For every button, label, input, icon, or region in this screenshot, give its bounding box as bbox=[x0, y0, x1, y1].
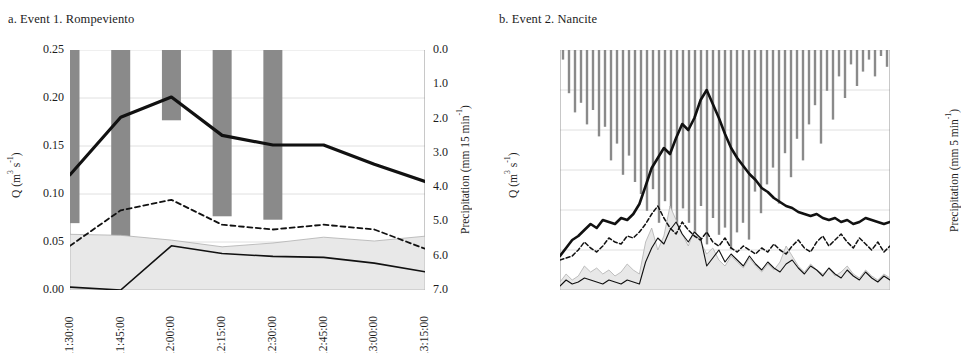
y-tick-label: 0.05 bbox=[22, 234, 64, 249]
y-tick-label: 0.20 bbox=[22, 90, 64, 105]
y2-tick-label: 5.0 bbox=[433, 213, 448, 228]
y2-tick-label: 7.0 bbox=[433, 282, 448, 297]
x-tick-label: 13:00:00 bbox=[367, 297, 379, 353]
y-tick-label: 0.00 bbox=[22, 282, 64, 297]
y2-tick-label: 6.0 bbox=[433, 248, 448, 263]
y-tick-label: 0.10 bbox=[22, 186, 64, 201]
y-tick-label: 0.15 bbox=[22, 138, 64, 153]
panel-a-y2-axis-title: Precipitation (mm 15 min-1) bbox=[455, 70, 469, 270]
x-tick-label: 12:45:00 bbox=[317, 297, 329, 353]
panel-event-2: b. Event 2. Nancite Q (m3 s-1) Precipita… bbox=[489, 0, 978, 353]
panel-event-1: a. Event 1. Rompeviento Q (m3 s-1) Preci… bbox=[0, 0, 489, 353]
x-tick-label: 12:30:00 bbox=[266, 297, 278, 353]
y-tick-label: 0.25 bbox=[22, 42, 64, 57]
y2-tick-label: 2.0 bbox=[433, 111, 448, 126]
panel-a-title: a. Event 1. Rompeviento bbox=[8, 12, 134, 27]
x-tick-label: 13:15:00 bbox=[418, 297, 430, 353]
x-tick-label: 11:45:00 bbox=[114, 297, 126, 353]
panel-b-title: b. Event 2. Nancite bbox=[499, 12, 597, 27]
y2-tick-label: 1.0 bbox=[433, 76, 448, 91]
x-tick-label: 12:00:00 bbox=[164, 297, 176, 353]
panel-a-plot-area bbox=[70, 50, 425, 290]
y2-tick-label: 3.0 bbox=[433, 145, 448, 160]
panel-b-y-axis-title: Q (m3 s-1) bbox=[503, 120, 517, 230]
x-tick-label: 12:15:00 bbox=[215, 297, 227, 353]
figure-two-panel-hydrographs: a. Event 1. Rompeviento Q (m3 s-1) Preci… bbox=[0, 0, 978, 353]
x-tick-label: 11:30:00 bbox=[63, 297, 75, 353]
panel-b-plot-area bbox=[560, 50, 890, 290]
panel-a-y-axis-title: Q (m3 s-1) bbox=[6, 120, 20, 230]
panel-b-y2-axis-title: Precipitation (mm 5 min-1) bbox=[944, 70, 958, 270]
y2-tick-label: 0.0 bbox=[433, 42, 448, 57]
y2-tick-label: 4.0 bbox=[433, 179, 448, 194]
